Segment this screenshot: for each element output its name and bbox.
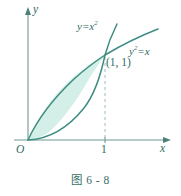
- curve-label-parabola-exponent: 2: [94, 19, 97, 26]
- curve-label-sqrt: y2=x: [129, 45, 150, 57]
- curve-label-sqrt-rest: =x: [137, 45, 149, 57]
- curve-label-parabola-base: y=x: [77, 20, 94, 32]
- figure-caption: 图 6 - 8: [0, 171, 181, 187]
- origin-label: O: [16, 144, 24, 156]
- shaded-region: [28, 55, 105, 140]
- y-axis-label: y: [33, 4, 38, 16]
- x-tick-label-one: 1: [101, 144, 107, 156]
- intersection-point-label: (1, 1): [106, 57, 131, 69]
- figure-container: y=x2 y2=x (1, 1) y x O 1 图 6 - 8: [0, 0, 181, 196]
- y-axis-arrow-icon: [25, 7, 31, 15]
- x-axis-label: x: [160, 143, 165, 155]
- curve-label-parabola: y=x2: [77, 20, 98, 32]
